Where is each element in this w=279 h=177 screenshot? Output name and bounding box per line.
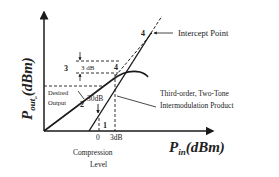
desired-pointer xyxy=(78,91,84,99)
imd-line xyxy=(89,16,162,131)
3db-label: 3 dB xyxy=(81,64,95,72)
marker-4-compression: 4 xyxy=(114,63,118,72)
tick-3db: 3dB xyxy=(110,133,123,142)
intercept-point-label: Intercept Point xyxy=(178,28,229,38)
tick-zero: 0 xyxy=(96,133,100,142)
marker-1: 1 xyxy=(103,121,107,130)
compression-label-line1: Compression xyxy=(73,148,113,157)
imd-label-line1: Third-order, Two-Tone xyxy=(160,89,230,98)
svg-text:Pin(dBm): Pin(dBm) xyxy=(169,139,225,157)
desired-label-line1: Desired xyxy=(48,89,69,96)
y-axis-label: Pouto(dBm) xyxy=(19,57,38,120)
marker-4-intercept: 4 xyxy=(141,29,145,38)
marker-3: 3 xyxy=(64,64,68,73)
desired-label-line2: Output xyxy=(48,99,66,106)
compression-label-line2: Level xyxy=(90,160,107,169)
intercept-diagram: Intercept Point Third-order, Two-Tone In… xyxy=(0,0,279,177)
30db-label: 30dB xyxy=(87,94,103,103)
imd-label-line2: Intermodulation Product xyxy=(160,101,234,110)
svg-text:Pouto(dBm): Pouto(dBm) xyxy=(19,57,38,120)
marker-2: 2 xyxy=(80,100,84,109)
x-axis-label: Pin(dBm) xyxy=(169,139,225,157)
imd-leader xyxy=(117,96,156,107)
